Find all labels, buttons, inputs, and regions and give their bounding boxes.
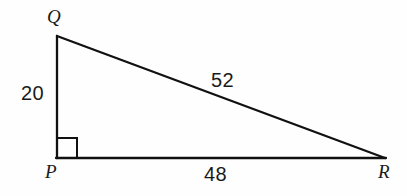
side-length-label-pr: 48 bbox=[204, 164, 227, 184]
vertex-label-q: Q bbox=[47, 7, 61, 26]
side-qr-hypotenuse-line bbox=[57, 36, 385, 158]
side-length-label-pq: 20 bbox=[21, 83, 44, 103]
geometry-diagram-canvas: Q P R 20 52 48 bbox=[0, 0, 407, 196]
vertex-label-p: P bbox=[45, 162, 57, 181]
vertex-label-r: R bbox=[378, 162, 390, 181]
right-angle-marker bbox=[57, 138, 77, 158]
side-length-label-qr: 52 bbox=[211, 70, 234, 90]
